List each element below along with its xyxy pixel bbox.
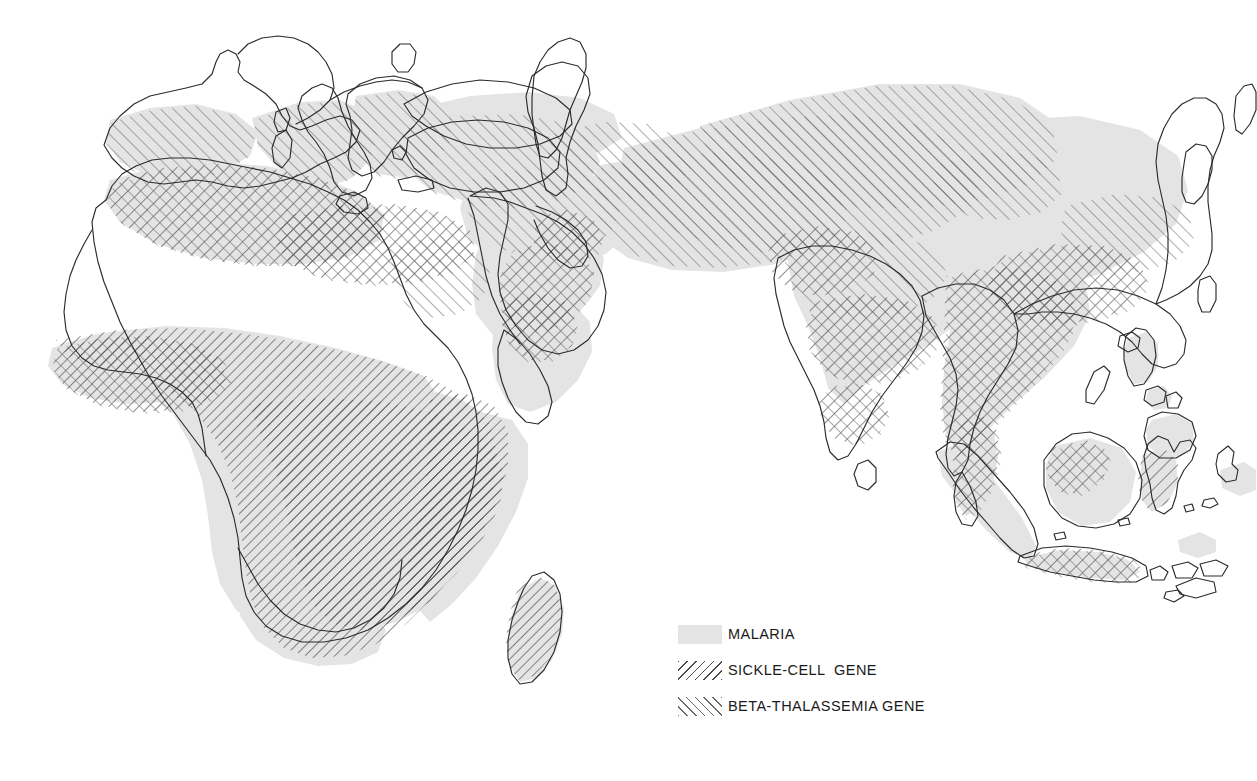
sickle-cell-swatch-icon — [678, 661, 722, 680]
map-legend: MALARIA SICKLE-CELL GENE BETA-THALASSEMI… — [678, 616, 1098, 724]
legend-label-sickle-cell: SICKLE-CELL GENE — [728, 662, 877, 678]
legend-row-sickle-cell: SICKLE-CELL GENE — [678, 652, 1098, 688]
beta-thalassemia-swatch-icon — [678, 697, 722, 716]
legend-row-malaria: MALARIA — [678, 616, 1098, 652]
distribution-map-figure: MALARIA SICKLE-CELL GENE BETA-THALASSEMI… — [0, 0, 1257, 781]
legend-label-beta-thalassemia: BETA-THALASSEMIA GENE — [728, 698, 925, 714]
legend-row-beta-thalassemia: BETA-THALASSEMIA GENE — [678, 688, 1098, 724]
malaria-swatch-icon — [678, 625, 722, 644]
legend-label-malaria: MALARIA — [728, 626, 795, 642]
